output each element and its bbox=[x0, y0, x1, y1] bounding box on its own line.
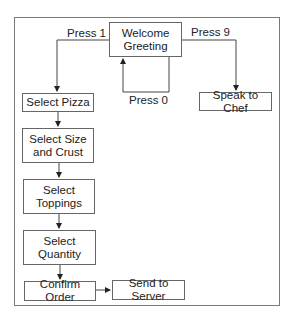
node-text: Select bbox=[36, 184, 82, 197]
node-text: Quantity bbox=[38, 248, 81, 261]
node-select-pizza: Select Pizza bbox=[22, 93, 94, 112]
node-text: Send to Server bbox=[113, 277, 184, 303]
node-welcome-greeting: WelcomeGreeting bbox=[109, 22, 182, 57]
edge-press9 bbox=[182, 40, 236, 90]
edge-label-press9: Press 9 bbox=[191, 26, 230, 38]
node-select-size-crust: Select Sizeand Crust bbox=[22, 128, 94, 163]
edge-label-press1: Press 1 bbox=[67, 27, 106, 39]
node-text: Greeting bbox=[122, 40, 170, 53]
node-text: Select Size bbox=[29, 133, 87, 146]
node-send-to-server: Send to Server bbox=[112, 280, 185, 300]
node-select-toppings: SelectToppings bbox=[23, 179, 95, 214]
node-text: Welcome bbox=[122, 27, 170, 40]
node-text: Select Pizza bbox=[26, 96, 89, 109]
node-speak-to-chef: Speak to Chef bbox=[199, 92, 272, 111]
edge-press1 bbox=[57, 40, 109, 91]
edge-press0 bbox=[123, 57, 169, 92]
node-text: and Crust bbox=[29, 146, 87, 159]
edge-label-press0: Press 0 bbox=[129, 94, 168, 106]
node-text: Speak to Chef bbox=[200, 89, 271, 115]
node-confirm-order: Confirm Order bbox=[24, 281, 96, 301]
node-select-quantity: SelectQuantity bbox=[23, 230, 96, 265]
node-text: Toppings bbox=[36, 197, 82, 210]
node-text: Confirm Order bbox=[25, 278, 95, 304]
node-text: Select bbox=[38, 235, 81, 248]
